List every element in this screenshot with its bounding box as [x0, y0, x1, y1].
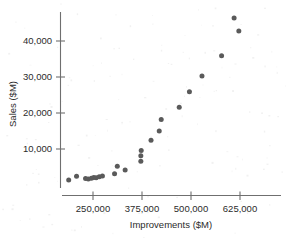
noise-speck [229, 77, 230, 78]
x-axis-title: Improvements ($M) [130, 219, 212, 230]
noise-speck [101, 62, 102, 64]
noise-speck [201, 25, 202, 26]
noise-speck [35, 139, 37, 140]
noise-speck [130, 25, 131, 27]
noise-speck [158, 217, 160, 219]
noise-speck [113, 48, 114, 49]
noise-speck [109, 76, 111, 77]
noise-speck [26, 138, 28, 139]
noise-speck [97, 165, 98, 166]
noise-speck [48, 122, 49, 123]
noise-speck [237, 156, 239, 157]
noise-speck [88, 157, 90, 159]
noise-speck [152, 15, 153, 16]
noise-speck [168, 63, 169, 64]
noise-speck [257, 34, 259, 35]
noise-speck [30, 65, 32, 66]
noise-speck [95, 135, 96, 136]
noise-speck [232, 90, 234, 92]
noise-speck [133, 59, 134, 60]
noise-speck [29, 218, 30, 220]
noise-speck [267, 164, 269, 165]
noise-speck [277, 72, 278, 74]
noise-speck [214, 91, 215, 92]
noise-speck [36, 169, 37, 170]
noise-speck [212, 162, 214, 164]
noise-speck [107, 130, 108, 132]
noise-speck [118, 99, 119, 100]
x-tick-label-250000: 250,000 [76, 203, 110, 214]
noise-speck [68, 85, 70, 86]
noise-speck [216, 90, 217, 91]
data-point [100, 174, 105, 179]
noise-speck [235, 64, 237, 65]
noise-speck [168, 149, 169, 151]
noise-speck [176, 197, 178, 198]
data-point [149, 138, 154, 143]
noise-speck [222, 67, 223, 68]
data-point [236, 28, 241, 33]
noise-speck [8, 53, 10, 55]
noise-speck [237, 214, 238, 215]
noise-speck [282, 171, 283, 172]
noise-speck [268, 115, 270, 117]
data-point [139, 148, 144, 153]
noise-speck [12, 208, 14, 210]
noise-speck [202, 85, 203, 86]
noise-speck [122, 123, 123, 124]
noise-speck [205, 52, 206, 54]
noise-speck [152, 24, 153, 25]
noise-speck [48, 214, 50, 215]
noise-speck [269, 145, 270, 146]
noise-speck [113, 233, 114, 234]
noise-speck [122, 74, 123, 75]
noise-speck [249, 111, 250, 113]
data-point [177, 105, 182, 110]
noise-speck [51, 224, 53, 225]
noise-speck [264, 66, 265, 68]
noise-speck [263, 169, 265, 170]
y-axis-title: Sales ($M) [7, 81, 18, 127]
noise-speck [240, 24, 242, 25]
noise-speck [215, 130, 216, 132]
noise-speck [2, 209, 4, 210]
x-tick-label-375000: 375,000 [125, 203, 159, 214]
y-tick-label-20000: 20,000 [23, 107, 52, 118]
noise-speck [119, 48, 121, 49]
noise-speck [106, 119, 108, 120]
noise-speck [61, 3, 62, 5]
noise-speck [212, 25, 213, 27]
y-tick-label-10000: 10,000 [23, 143, 52, 154]
noise-speck [235, 233, 236, 234]
noise-speck [161, 45, 162, 46]
x-tick-label-500000: 500,000 [174, 203, 208, 214]
noise-speck [264, 131, 265, 133]
noise-speck [42, 227, 44, 228]
noise-speck [121, 122, 123, 123]
noise-speck [197, 123, 198, 125]
noise-speck [129, 121, 130, 122]
data-point [123, 167, 128, 172]
noise-speck [49, 103, 50, 104]
noise-speck [94, 80, 95, 82]
noise-speck [137, 171, 138, 172]
noise-speck [81, 226, 82, 228]
x-tick-label-625000: 625,000 [223, 203, 257, 214]
noise-speck [161, 50, 162, 52]
noise-speck [147, 196, 149, 198]
scatter-chart: 10,00020,00030,00040,000 250,000375,0005… [0, 0, 286, 238]
noise-speck [180, 103, 182, 104]
noise-speck [269, 204, 270, 205]
noise-speck [186, 86, 187, 88]
noise-speck [277, 66, 278, 67]
noise-speck [213, 50, 215, 51]
noise-speck [62, 101, 63, 102]
noise-speck [26, 184, 27, 185]
noise-speck [74, 230, 76, 232]
noise-speck [235, 168, 236, 170]
noise-speck [232, 171, 233, 173]
data-point [219, 53, 224, 58]
noise-speck [128, 187, 129, 189]
noise-speck [184, 96, 185, 97]
noise-speck [163, 115, 164, 116]
